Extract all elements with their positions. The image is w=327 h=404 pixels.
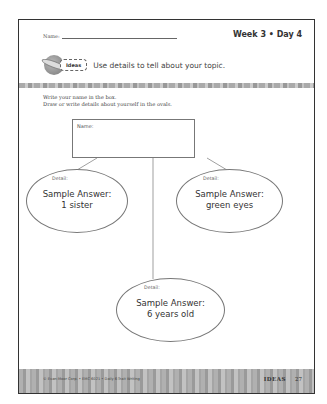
detail-oval-bottom[interactable]: Detail: Sample Answer: 6 years old (116, 278, 225, 342)
detail-answer-line2: 1 sister (27, 200, 127, 210)
detail-answer-line1: Sample Answer: (27, 189, 127, 199)
section-label: IDEAS (264, 376, 286, 382)
detail-answer-line1: Sample Answer: (117, 298, 224, 308)
detail-label: Detail: (52, 176, 68, 181)
worksheet-page: Name: Week 3 • Day 4 Ideas Use details t… (18, 19, 315, 394)
name-box-label: Name: (77, 123, 93, 129)
detail-answer-line2: 6 years old (117, 309, 224, 319)
detail-label: Detail: (144, 285, 160, 290)
name-box[interactable]: Name: (72, 119, 195, 158)
footer-band: © Evan-Moor Corp. • EMC 6021 • Daily 6-T… (19, 369, 314, 393)
page-number: 27 (295, 376, 302, 382)
detail-oval-left[interactable]: Detail: Sample Answer: 1 sister (26, 169, 128, 233)
detail-answer-line2: green eyes (177, 200, 282, 210)
detail-oval-right[interactable]: Detail: Sample Answer: green eyes (176, 169, 283, 233)
detail-answer-line1: Sample Answer: (177, 189, 282, 199)
copyright: © Evan-Moor Corp. • EMC 6021 • Daily 6-T… (43, 377, 140, 381)
detail-label: Detail: (203, 176, 219, 181)
ideas-badge: Ideas (60, 59, 87, 71)
